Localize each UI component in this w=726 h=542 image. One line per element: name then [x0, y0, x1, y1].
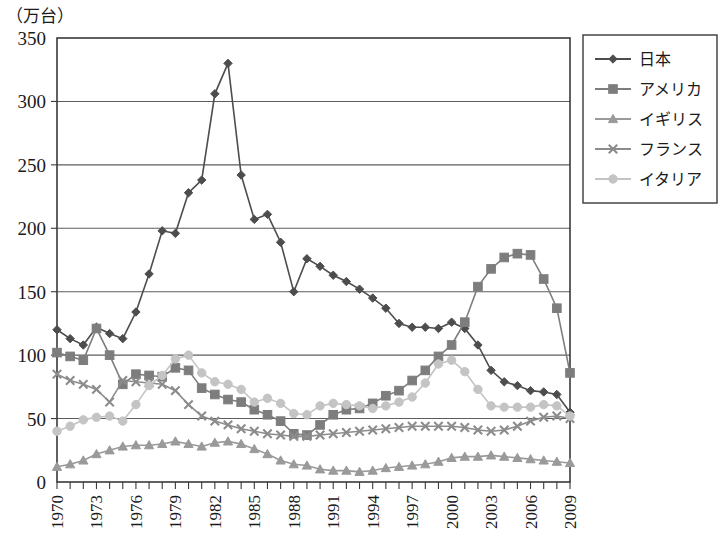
data-point-marker — [395, 386, 404, 395]
data-point-marker — [513, 422, 521, 430]
x-axis-tick-label: 1997 — [403, 495, 422, 530]
data-point-marker — [132, 400, 140, 408]
data-point-marker — [408, 393, 416, 401]
data-point-marker — [224, 380, 232, 388]
data-point-marker — [92, 385, 100, 393]
data-point-marker — [250, 398, 258, 406]
data-point-marker — [145, 371, 154, 380]
y-axis-tick-label: 100 — [18, 345, 47, 366]
y-axis-tick-label: 300 — [18, 91, 47, 112]
data-point-marker — [395, 398, 403, 406]
data-point-marker — [461, 367, 469, 375]
data-point-marker — [66, 352, 75, 361]
data-point-marker — [79, 456, 88, 464]
legend-item-label: イタリア — [639, 171, 702, 188]
legend-item-label: フランス — [639, 141, 703, 158]
data-point-marker — [224, 421, 232, 429]
data-point-marker — [382, 402, 390, 410]
data-point-marker — [119, 334, 127, 342]
data-point-marker — [197, 384, 206, 393]
data-point-marker — [105, 329, 113, 337]
data-point-marker — [224, 59, 232, 67]
line-chart: 0501001502002503003501970197319761979198… — [0, 0, 726, 542]
data-point-marker — [66, 422, 74, 430]
data-point-marker — [237, 398, 246, 407]
data-point-marker — [500, 403, 508, 411]
data-point-marker — [526, 403, 534, 411]
data-point-marker — [566, 369, 575, 378]
x-axis-tick-label: 1970 — [48, 495, 67, 529]
data-point-marker — [184, 351, 192, 359]
y-axis-tick-label: 350 — [18, 28, 47, 49]
data-point-marker — [434, 324, 442, 332]
data-point-marker — [553, 402, 561, 410]
data-point-marker — [53, 348, 62, 357]
data-point-marker — [421, 379, 429, 387]
data-point-marker — [211, 90, 219, 98]
y-axis-tick-label: 200 — [18, 218, 47, 239]
data-point-marker — [290, 288, 298, 296]
data-point-marker — [355, 402, 363, 410]
x-axis-tick-label: 1976 — [127, 495, 146, 529]
data-point-marker — [79, 380, 87, 388]
data-point-marker — [434, 360, 442, 368]
y-axis-tick-label: 50 — [27, 409, 46, 430]
data-point-marker — [447, 356, 455, 364]
data-point-marker — [408, 323, 416, 331]
data-point-marker — [276, 417, 285, 426]
data-point-marker — [539, 275, 548, 284]
chart-root: （万台） 05010015020025030035019701973197619… — [0, 0, 726, 542]
data-point-marker — [145, 270, 153, 278]
data-point-marker — [92, 324, 101, 333]
data-point-marker — [79, 416, 87, 424]
data-point-marker — [105, 412, 113, 420]
data-point-marker — [539, 400, 547, 408]
data-point-marker — [513, 381, 521, 389]
data-point-marker — [132, 308, 140, 316]
data-point-marker — [263, 394, 271, 402]
x-axis-tick-label: 1973 — [87, 495, 106, 529]
legend-marker-icon — [609, 85, 618, 94]
data-point-marker — [566, 412, 574, 420]
x-axis-tick-label: 1985 — [245, 495, 264, 529]
data-point-marker — [460, 318, 469, 327]
data-point-marker — [526, 251, 535, 260]
data-point-marker — [250, 215, 258, 223]
x-axis-tick-label: 2000 — [443, 495, 462, 529]
data-point-marker — [539, 388, 547, 396]
data-point-marker — [408, 376, 417, 385]
data-point-marker — [184, 366, 193, 375]
data-point-marker — [447, 318, 455, 326]
data-point-marker — [105, 351, 114, 360]
data-point-marker — [92, 413, 100, 421]
y-axis-tick-label: 250 — [18, 155, 47, 176]
data-point-marker — [474, 282, 483, 291]
data-point-marker — [263, 410, 272, 419]
data-point-marker — [211, 378, 219, 386]
data-point-marker — [487, 265, 496, 274]
x-axis-tick-label: 2003 — [482, 495, 501, 529]
data-point-marker — [53, 427, 61, 435]
data-point-marker — [276, 399, 284, 407]
series-3 — [52, 437, 574, 476]
data-point-marker — [303, 411, 311, 419]
data-point-marker — [66, 376, 74, 384]
y-axis-tick-label: 0 — [37, 472, 47, 493]
data-point-marker — [276, 456, 285, 464]
series-5 — [53, 351, 574, 436]
data-point-marker — [342, 400, 350, 408]
data-point-marker — [303, 255, 311, 263]
data-point-marker — [553, 304, 562, 313]
series-line — [57, 63, 570, 412]
data-point-marker — [171, 355, 179, 363]
plot-area-border — [57, 38, 570, 482]
series-line — [57, 355, 570, 431]
data-point-marker — [171, 229, 179, 237]
x-axis-tick-label: 1982 — [206, 495, 225, 529]
data-point-marker — [171, 437, 180, 445]
data-point-marker — [474, 385, 482, 393]
x-axis-tick-label: 1991 — [324, 495, 343, 529]
data-point-marker — [171, 364, 180, 373]
data-point-marker — [368, 404, 376, 412]
data-point-marker — [211, 390, 220, 399]
